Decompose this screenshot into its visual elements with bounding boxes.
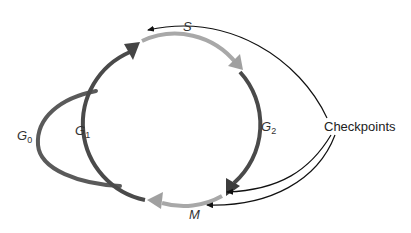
cell-cycle-svg — [0, 0, 411, 233]
phase-label-g2: G2 — [261, 120, 276, 136]
g1-label-text: G — [75, 123, 85, 138]
g2-label-text: G — [261, 119, 271, 134]
s-arc — [142, 34, 236, 63]
g1-arc — [83, 52, 145, 200]
g0-label-text: G — [17, 128, 27, 143]
g1-label-sub: 1 — [85, 130, 90, 140]
phase-label-g1: G1 — [75, 124, 90, 140]
m-arrowhead-icon — [147, 192, 163, 209]
checkpoints-label: Checkpoints — [324, 120, 396, 133]
g2-label-sub: 2 — [271, 126, 276, 136]
g2-arc — [234, 72, 260, 183]
g0-label-sub: 0 — [27, 135, 32, 145]
checkpoint-pointer-g2m — [227, 135, 331, 192]
checkpoint-pointer-s — [148, 26, 327, 118]
m-label-text: M — [189, 207, 200, 222]
s-label-text: S — [183, 19, 192, 34]
g1-arrowhead-icon — [124, 42, 140, 60]
phase-label-s: S — [183, 20, 192, 33]
cell-cycle-diagram: S G0 G1 G2 M Checkpoints — [0, 0, 411, 233]
phase-label-g0: G0 — [17, 129, 32, 145]
phase-label-m: M — [189, 208, 200, 221]
